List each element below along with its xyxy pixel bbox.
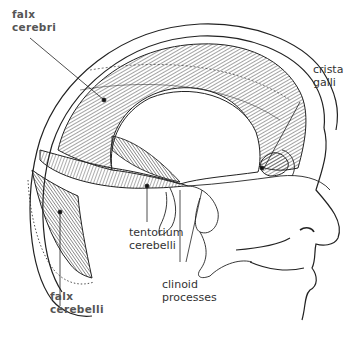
label-clinoid-processes: clinoid processes <box>162 278 217 304</box>
label-line: crista <box>313 63 343 76</box>
label-line: cerebelli <box>129 239 183 252</box>
label-falx-cerebri: falx cerebri <box>12 8 56 34</box>
label-line: cerebelli <box>50 303 104 316</box>
label-crista-galli: crista galli <box>313 63 343 89</box>
label-line: tentorium <box>129 226 183 239</box>
label-line: falx <box>12 8 56 21</box>
falx-cerebelli-shape <box>28 170 94 284</box>
label-tentorium-cerebelli: tentorium cerebelli <box>129 226 183 252</box>
label-line: falx <box>50 290 104 303</box>
label-line: processes <box>162 291 217 304</box>
label-line: cerebri <box>12 21 56 34</box>
sphenoid-outline <box>159 176 330 278</box>
label-line: clinoid <box>162 278 217 291</box>
label-falx-cerebelli: falx cerebelli <box>50 290 104 316</box>
label-line: galli <box>313 76 343 89</box>
